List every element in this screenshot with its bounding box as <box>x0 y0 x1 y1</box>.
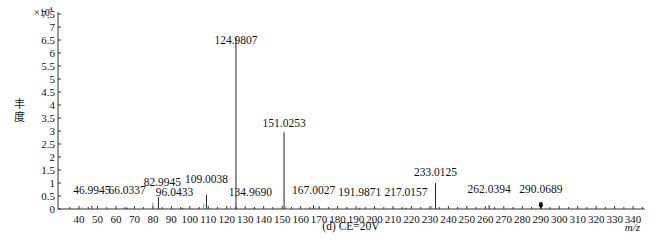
y-tick-label: 4 <box>50 99 56 111</box>
peak-label: 134.9690 <box>229 186 272 198</box>
x-tick-label: 210 <box>385 213 402 225</box>
x-tick-label: 120 <box>219 213 236 225</box>
peak-label: 191.9871 <box>338 186 381 198</box>
peak-labels: 46.994566.033782.994596.0433109.0038124.… <box>73 34 562 198</box>
y-tick-label: 6.5 <box>41 34 55 46</box>
x-tick-label: 60 <box>110 213 122 225</box>
x-tick-label: 130 <box>237 213 254 225</box>
peak-label: 66.0337 <box>108 184 146 196</box>
x-tick-label: 310 <box>569 213 586 225</box>
x-tick-label: 90 <box>166 213 178 225</box>
y-tick-label: 6 <box>50 47 56 59</box>
x-axis-label: m/z <box>625 221 641 233</box>
y-tick-label: 0 <box>50 203 56 215</box>
peak-label: 46.9945 <box>73 184 111 196</box>
y-axis-label: 丰度 <box>14 98 25 123</box>
y-tick-label: 4.5 <box>41 86 55 98</box>
x-tick-label: 290 <box>533 213 550 225</box>
x-tick-label: 240 <box>440 213 457 225</box>
y-tick-label: 3 <box>50 125 56 137</box>
chart-canvas: 00.511.522.533.544.555.566.577.540506070… <box>0 0 661 246</box>
x-tick-label: 150 <box>274 213 291 225</box>
x-tick-label: 270 <box>496 213 513 225</box>
y-tick-label: 1.5 <box>41 164 55 176</box>
y-tick-label: 3.5 <box>41 112 55 124</box>
x-tick-label: 110 <box>200 213 217 225</box>
peak-label: 262.0394 <box>468 183 511 195</box>
x-tick-label: 330 <box>606 213 623 225</box>
x-tick-label: 320 <box>588 213 605 225</box>
x-tick-label: 250 <box>459 213 476 225</box>
y-tick-label: 1 <box>50 177 56 189</box>
y-tick-label: 7 <box>50 21 56 33</box>
peak-label: 167.0027 <box>292 184 335 196</box>
peak-label: 96.0433 <box>156 186 194 198</box>
x-tick-label: 230 <box>422 213 439 225</box>
peak-label: 290.0689 <box>519 183 562 195</box>
x-tick-label: 140 <box>255 213 272 225</box>
y-tick-label: 2 <box>50 151 56 163</box>
x-tick-label: 260 <box>477 213 494 225</box>
x-tick-label: 280 <box>514 213 531 225</box>
x-tick-label: 100 <box>182 213 199 225</box>
y-tick-label: 5.5 <box>41 60 55 72</box>
peak-label: 233.0125 <box>414 166 457 178</box>
peak-label: 151.0253 <box>263 117 306 129</box>
x-tick-label: 220 <box>403 213 420 225</box>
chart-caption: (d) CE=20V <box>322 220 380 233</box>
peak-label: 109.0038 <box>185 173 228 185</box>
y-tick-label: 2.5 <box>41 138 55 150</box>
y-tick-label: 0.5 <box>41 190 55 202</box>
mass-spectrum-chart: 00.511.522.533.544.555.566.577.540506070… <box>0 0 661 246</box>
y-tick-label: 5 <box>50 73 56 85</box>
x-tick-label: 40 <box>74 213 86 225</box>
x-tick-label: 80 <box>147 213 159 225</box>
x-tick-label: 300 <box>551 213 568 225</box>
x-tick-label: 70 <box>129 213 141 225</box>
x-tick-label: 160 <box>292 213 309 225</box>
svg-text:4: 4 <box>49 5 53 13</box>
peak-label: 124.9807 <box>214 34 257 46</box>
x-tick-label: 50 <box>92 213 104 225</box>
svg-text:×10: ×10 <box>34 7 50 18</box>
peak-label: 217.0157 <box>384 186 427 198</box>
